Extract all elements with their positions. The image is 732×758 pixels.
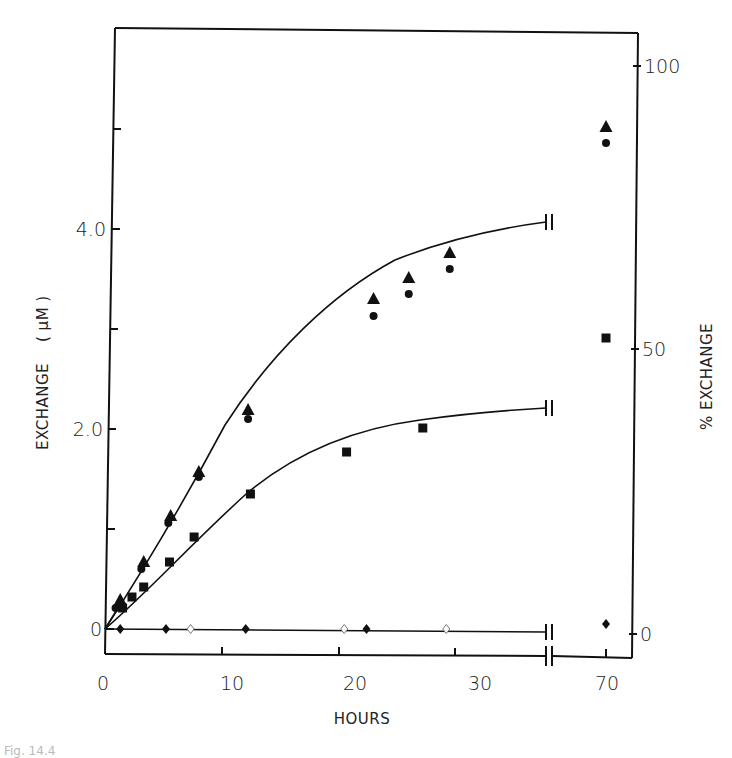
- triangle-marker: [402, 271, 415, 283]
- triangle-marker: [443, 246, 456, 258]
- fit-curve-upper: [105, 222, 546, 629]
- y-tick-label: 2.0: [73, 418, 103, 440]
- square-marker: [139, 583, 148, 592]
- triangle-marker: [367, 292, 380, 304]
- right-y-axis: [632, 33, 638, 658]
- plot-frame: [105, 28, 638, 666]
- y-tick-label: 4.0: [76, 218, 106, 240]
- circle-marker: [405, 290, 413, 298]
- left-y-tick-labels: 0 2.0 4.0: [73, 218, 106, 640]
- circle-marker: [137, 565, 145, 573]
- circle-marker: [244, 415, 252, 423]
- circle-marker: [446, 265, 454, 273]
- x-tick-label: 20: [343, 672, 367, 694]
- left-y-axis-title: EXCHANGE ( µM ): [34, 295, 52, 450]
- square-marker: [190, 533, 199, 542]
- square-marker: [602, 334, 611, 343]
- circle-marker: [164, 519, 172, 527]
- square-marker: [127, 593, 136, 602]
- x-axis-right-segment: [552, 656, 632, 658]
- open-diamond-marker: [341, 625, 348, 634]
- x-tick-label: 0: [97, 672, 109, 694]
- y-right-tick-label: 0: [640, 623, 652, 645]
- fit-curve-baseline: [105, 629, 546, 632]
- diamond-marker: [602, 619, 610, 629]
- top-border: [115, 28, 638, 33]
- left-y-axis-unit: ( µM ): [34, 295, 52, 342]
- circle-marker: [195, 473, 203, 481]
- right-y-axis-title-text: % EXCHANGE: [698, 323, 716, 430]
- x-tick-label: 10: [220, 672, 244, 694]
- left-y-axis: [105, 28, 115, 654]
- y-right-tick-label: 50: [642, 338, 666, 360]
- open-diamond-marker: [187, 625, 194, 634]
- right-y-axis-title: % EXCHANGE: [698, 323, 716, 430]
- x-tick-label: 70: [595, 672, 619, 694]
- triangle-marker: [600, 120, 613, 132]
- diamond-marker: [363, 624, 371, 634]
- square-marker: [342, 448, 351, 457]
- right-y-ticks: [629, 66, 641, 634]
- data-markers: [112, 120, 613, 634]
- diamond-marker: [116, 624, 124, 634]
- x-axis-left-segment: [105, 654, 546, 656]
- caption-fragment: Fig. 14.4: [4, 744, 55, 758]
- circle-marker: [602, 139, 610, 147]
- square-marker: [418, 424, 427, 433]
- left-y-ticks: [106, 129, 121, 629]
- square-marker: [165, 558, 174, 567]
- left-y-axis-title-text: EXCHANGE: [34, 363, 52, 450]
- diamond-marker: [242, 624, 250, 634]
- right-y-tick-labels: 0 50 100: [640, 55, 680, 645]
- diamond-marker: [162, 624, 170, 634]
- y-tick-label: 0: [90, 618, 102, 640]
- triangle-marker: [242, 403, 255, 415]
- circle-marker: [370, 312, 378, 320]
- y-right-tick-label: 100: [644, 55, 680, 77]
- open-diamond-marker: [443, 625, 450, 634]
- x-tick-labels: 0 10 20 30 70: [97, 672, 619, 694]
- x-axis-title: HOURS: [334, 710, 391, 728]
- x-tick-label: 30: [468, 672, 492, 694]
- square-marker: [246, 490, 255, 499]
